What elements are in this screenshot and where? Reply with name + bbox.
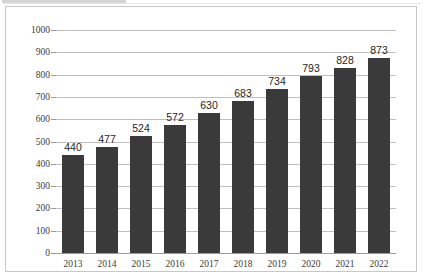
bar[interactable]: 6832018 — [232, 101, 254, 253]
x-axis-category-label: 2017 — [200, 259, 219, 269]
top-edge-rule — [2, 3, 421, 4]
bar-value-label: 828 — [336, 54, 354, 66]
y-axis-tick-label: 400 — [36, 159, 50, 169]
bar[interactable]: 5242015 — [130, 136, 152, 253]
bar[interactable]: 5722016 — [164, 125, 186, 253]
bar-value-label: 793 — [302, 62, 320, 74]
bar[interactable]: 4772014 — [96, 147, 118, 253]
x-axis-category-label: 2014 — [98, 259, 117, 269]
y-axis-tick-mark — [51, 142, 56, 143]
x-axis-category-label: 2018 — [234, 259, 253, 269]
y-axis-tick-label: 200 — [36, 203, 50, 213]
y-axis-tick-label: 100 — [36, 226, 50, 236]
x-axis-category-label: 2019 — [268, 259, 287, 269]
bar-value-label: 734 — [268, 75, 286, 87]
gridline-900: 900 — [56, 52, 396, 53]
y-axis-tick-mark — [51, 119, 56, 120]
y-axis-tick-mark — [51, 164, 56, 165]
y-axis-tick-label: 1000 — [31, 25, 50, 35]
bar-value-label: 524 — [132, 122, 150, 134]
y-axis-tick-label: 600 — [36, 114, 50, 124]
chart-screenshot: 1000900800700600500400300200100044020134… — [0, 0, 423, 279]
x-axis-category-label: 2020 — [302, 259, 321, 269]
x-axis-category-label: 2021 — [336, 259, 355, 269]
bar-value-label: 630 — [200, 99, 218, 111]
x-axis-category-label: 2022 — [370, 259, 389, 269]
y-axis-tick-label: 700 — [36, 92, 50, 102]
y-axis-tick-label: 500 — [36, 137, 50, 147]
y-axis-tick-mark — [51, 75, 56, 76]
bar-value-label: 440 — [64, 141, 82, 153]
y-axis-tick-mark — [51, 97, 56, 98]
y-axis-tick-label: 300 — [36, 181, 50, 191]
y-axis-tick-mark — [51, 52, 56, 53]
y-axis-tick-label: 800 — [36, 70, 50, 80]
bar[interactable]: 8732022 — [368, 58, 390, 253]
plot-area: 1000900800700600500400300200100044020134… — [56, 30, 396, 253]
y-axis-tick-label: 900 — [36, 47, 50, 57]
bar-value-label: 683 — [234, 87, 252, 99]
bar[interactable]: 7932020 — [300, 76, 322, 253]
x-axis-category-label: 2013 — [64, 259, 83, 269]
bar-value-label: 477 — [98, 133, 116, 145]
y-axis-tick-mark — [51, 186, 56, 187]
y-axis-tick-mark — [51, 253, 56, 254]
bar[interactable]: 7342019 — [266, 89, 288, 253]
bar[interactable]: 4402013 — [62, 155, 84, 253]
x-axis-category-label: 2016 — [166, 259, 185, 269]
x-axis-category-label: 2015 — [132, 259, 151, 269]
y-axis-tick-mark — [51, 30, 56, 31]
y-axis-tick-mark — [51, 231, 56, 232]
bar-value-label: 572 — [166, 111, 184, 123]
y-axis-tick-label: 0 — [45, 248, 50, 258]
bar[interactable]: 8282021 — [334, 68, 356, 253]
chart-border: 1000900800700600500400300200100044020134… — [5, 6, 417, 272]
gridline-1000: 1000 — [56, 30, 396, 31]
gridline-0: 0 — [56, 253, 396, 254]
y-axis-tick-mark — [51, 208, 56, 209]
bar-value-label: 873 — [370, 44, 388, 56]
bar[interactable]: 6302017 — [198, 113, 220, 253]
